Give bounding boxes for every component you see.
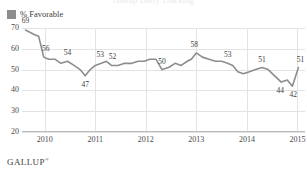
trademark-icon: ® xyxy=(45,157,49,162)
x-tick-2013: 2013 xyxy=(188,136,204,144)
cutoff-title-text: Gallup Daily Tracking xyxy=(0,0,307,5)
data-label-69: 69 xyxy=(22,17,30,25)
gridline-h-20 xyxy=(22,132,305,133)
data-label-42: 42 xyxy=(290,91,298,99)
gallup-favorability-chart: Gallup Daily Tracking % Favorable 203040… xyxy=(0,0,307,171)
x-tick-2015: 2015 xyxy=(289,136,305,144)
y-tick-20: 20 xyxy=(11,128,19,136)
data-label-53: 53 xyxy=(224,51,232,59)
gallup-brand-text: GALLUP xyxy=(7,157,45,167)
data-label-50: 50 xyxy=(158,58,166,66)
data-label-44: 44 xyxy=(276,87,284,95)
gallup-brand: GALLUP® xyxy=(7,157,49,167)
y-tick-40: 40 xyxy=(11,86,19,94)
data-label-53: 53 xyxy=(97,51,105,59)
y-tick-30: 30 xyxy=(11,107,19,115)
y-tick-70: 70 xyxy=(11,24,19,32)
series-line-favorable xyxy=(22,28,305,132)
data-label-51: 51 xyxy=(258,56,266,64)
data-label-54: 54 xyxy=(64,49,72,57)
data-label-47: 47 xyxy=(81,81,89,89)
x-tick-2010: 2010 xyxy=(37,136,53,144)
cutoff-title: Gallup Daily Tracking xyxy=(0,0,307,6)
data-label-51: 51 xyxy=(297,56,305,64)
y-tick-50: 50 xyxy=(11,66,19,74)
x-tick-2014: 2014 xyxy=(239,136,255,144)
y-tick-60: 60 xyxy=(11,45,19,53)
x-tick-2011: 2011 xyxy=(87,136,103,144)
data-label-58: 58 xyxy=(191,41,199,49)
legend-swatch-icon xyxy=(7,10,16,19)
data-label-56: 56 xyxy=(42,45,50,53)
chart-legend: % Favorable xyxy=(7,9,63,20)
plot-area: 203040506070 201020112012201320142015 69… xyxy=(22,28,305,132)
data-label-52: 52 xyxy=(109,53,117,61)
x-tick-2012: 2012 xyxy=(138,136,154,144)
